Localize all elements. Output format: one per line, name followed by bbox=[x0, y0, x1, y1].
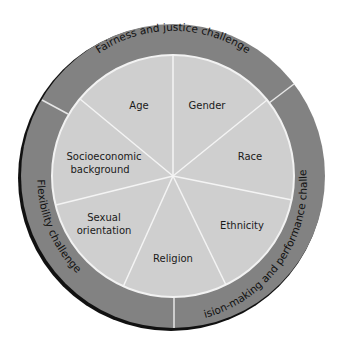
segment-label-age: Age bbox=[129, 100, 148, 111]
segment-label-socioeconomic-line1: Socioeconomic bbox=[66, 151, 141, 162]
segment-label-socioeconomic-line2: background bbox=[70, 164, 129, 175]
diversity-challenges-diagram: Gender Race Ethnicity Religion Sexual or… bbox=[0, 0, 341, 354]
segment-label-sexual-orientation-line2: orientation bbox=[77, 225, 132, 236]
segment-label-gender: Gender bbox=[189, 100, 227, 111]
segment-label-ethnicity: Ethnicity bbox=[220, 220, 264, 231]
segment-label-religion: Religion bbox=[153, 253, 193, 264]
segment-label-race: Race bbox=[238, 151, 263, 162]
segment-label-sexual-orientation-line1: Sexual bbox=[87, 212, 121, 223]
